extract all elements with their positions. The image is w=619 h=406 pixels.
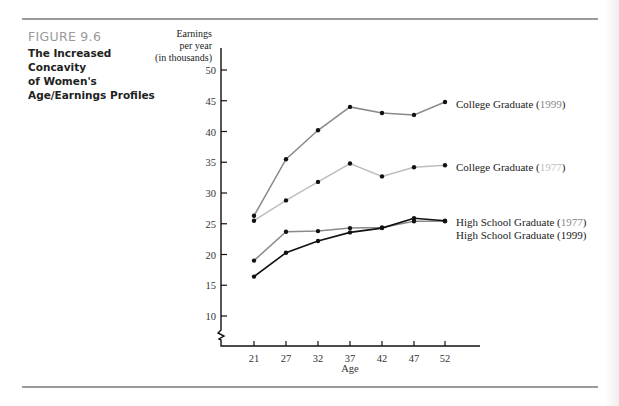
- data-point: [284, 198, 288, 202]
- y-tick-label: 20: [206, 250, 217, 261]
- data-point: [412, 113, 416, 117]
- series-label: College Graduate (1999): [456, 98, 566, 111]
- y-tick-label: 40: [206, 127, 217, 138]
- y-tick-label: 25: [206, 219, 217, 230]
- data-point: [412, 216, 416, 220]
- data-point: [316, 229, 320, 233]
- series-label: College Graduate (1977): [456, 161, 566, 174]
- y-tick-label: 15: [206, 280, 217, 291]
- x-tick-label: 52: [440, 353, 451, 364]
- series-line: [254, 102, 445, 216]
- data-point: [284, 251, 288, 255]
- y-tick-label: 50: [206, 65, 217, 76]
- x-tick-label: 27: [281, 353, 292, 364]
- data-point: [348, 226, 352, 230]
- data-point: [412, 165, 416, 169]
- data-point: [252, 258, 256, 262]
- data-point: [443, 100, 447, 104]
- series-line: [254, 164, 445, 221]
- data-point: [380, 111, 384, 115]
- y-tick-label: 30: [206, 188, 217, 199]
- data-point: [348, 105, 352, 109]
- data-point: [284, 157, 288, 161]
- series-label: High School Graduate (1977): [456, 216, 587, 229]
- x-tick-label: 47: [409, 353, 420, 364]
- x-axis-label: Age: [341, 363, 359, 374]
- data-point: [316, 239, 320, 243]
- data-point: [348, 230, 352, 234]
- y-tick-label: 35: [206, 157, 217, 168]
- data-point: [316, 180, 320, 184]
- line-chart: 10152025303540455021273237424752AgeColle…: [0, 0, 619, 406]
- data-point: [252, 219, 256, 223]
- x-tick-label: 21: [249, 353, 260, 364]
- axes: [218, 48, 480, 346]
- x-tick-label: 32: [313, 353, 324, 364]
- data-point: [380, 226, 384, 230]
- data-point: [252, 274, 256, 278]
- data-point: [443, 219, 447, 223]
- y-tick-label: 10: [206, 311, 217, 322]
- x-tick-label: 42: [377, 353, 388, 364]
- data-point: [252, 214, 256, 218]
- data-point: [443, 163, 447, 167]
- data-point: [380, 174, 384, 178]
- y-tick-label: 45: [206, 96, 217, 107]
- data-point: [316, 128, 320, 132]
- data-point: [284, 230, 288, 234]
- data-point: [348, 161, 352, 165]
- series-label: High School Graduate (1999): [456, 229, 587, 242]
